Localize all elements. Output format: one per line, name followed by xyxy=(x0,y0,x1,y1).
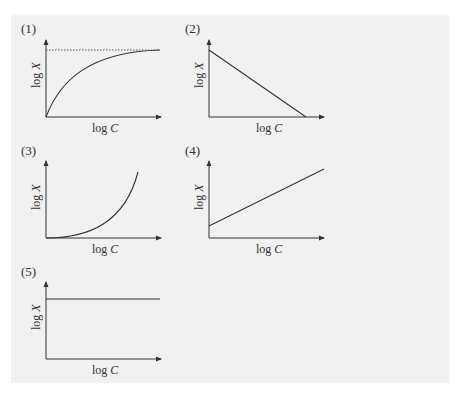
x-axis-label: log C xyxy=(256,121,283,135)
x-axis-label: log C xyxy=(92,363,119,377)
panel-1: (1) log C log X xyxy=(21,21,161,135)
panel-label: (4) xyxy=(185,143,200,158)
panel-3: (3) log C log X xyxy=(21,143,161,256)
y-axis-label: log X xyxy=(192,184,206,210)
y-axis-label: log X xyxy=(29,304,43,330)
y-axis-label: log X xyxy=(29,62,43,88)
panel-5: (5) log C log X xyxy=(21,264,161,377)
saturation-curve xyxy=(46,50,160,117)
panel-label: (1) xyxy=(21,21,36,36)
panel-2: (2) log C log X xyxy=(185,21,324,135)
convex-curve xyxy=(46,172,138,238)
y-axis-label: log X xyxy=(29,184,43,210)
panel-label: (2) xyxy=(185,21,200,36)
decreasing-line xyxy=(209,50,306,117)
y-axis-label: log X xyxy=(192,62,206,88)
x-axis-label: log C xyxy=(92,121,119,135)
figure-canvas: (1) log C log X (2) log C log X (3) log … xyxy=(0,0,466,393)
panel-label: (3) xyxy=(21,143,36,158)
increasing-line xyxy=(209,169,324,226)
x-axis-label: log C xyxy=(256,242,283,256)
panel-label: (5) xyxy=(21,264,36,279)
panel-4: (4) log C log X xyxy=(185,143,324,256)
x-axis-label: log C xyxy=(92,242,119,256)
